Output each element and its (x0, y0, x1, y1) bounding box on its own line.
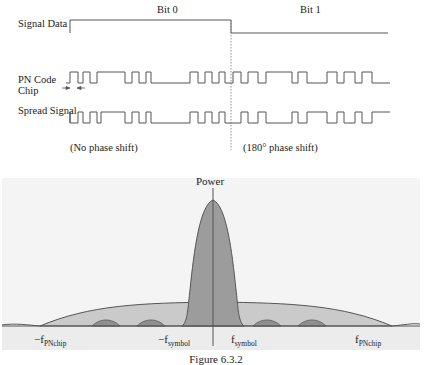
fpnchip-label: fPNchip (355, 333, 381, 348)
neg-fpnchip-label: −fPNchip (34, 333, 66, 348)
neg-fsymbol-label: −fsymbol (158, 333, 190, 348)
power-axis-label: Power (196, 175, 224, 187)
figure-caption: Figure 6.3.2 (0, 353, 432, 365)
fsymbol-label: fsymbol (231, 333, 257, 348)
